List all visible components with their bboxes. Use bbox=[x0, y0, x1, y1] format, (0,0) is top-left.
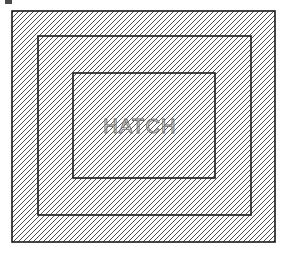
figure-canvas: HATCH bbox=[0, 0, 289, 259]
hatch-label: HATCH bbox=[103, 115, 176, 137]
scan-speck-artifact bbox=[5, 0, 12, 4]
hatch-diagram: HATCH bbox=[0, 0, 289, 259]
